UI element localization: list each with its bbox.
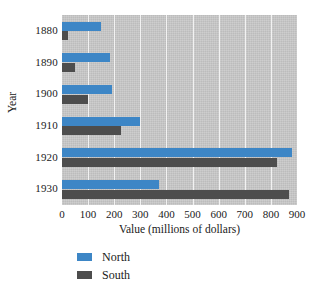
- bar-group: [62, 15, 297, 47]
- x-tick-300: 300: [132, 208, 149, 220]
- x-tick-0: 0: [59, 208, 65, 220]
- bar-south-1890: [62, 63, 75, 72]
- bar-north-1880: [62, 22, 101, 31]
- bar-north-1900: [62, 85, 112, 94]
- legend-item-south: South: [77, 266, 197, 284]
- y-tick-1910: 1910: [18, 120, 58, 131]
- x-tick-400: 400: [158, 208, 175, 220]
- legend-swatch-north-icon: [77, 253, 92, 261]
- x-tick-900: 900: [289, 208, 306, 220]
- y-tick-1930: 1930: [18, 183, 58, 194]
- legend: North South: [77, 248, 197, 284]
- bar-group: [62, 78, 297, 110]
- bar-group: [62, 110, 297, 142]
- bar-chart-figure: 188018901900191019201930 010020030040050…: [0, 0, 312, 291]
- y-tick-1920: 1920: [18, 152, 58, 163]
- bar-north-1890: [62, 53, 110, 62]
- x-tick-700: 700: [237, 208, 254, 220]
- legend-label-south: South: [102, 269, 130, 282]
- bar-south-1910: [62, 126, 121, 135]
- bar-group: [62, 173, 297, 205]
- legend-item-north: North: [77, 248, 197, 266]
- x-tick-800: 800: [263, 208, 280, 220]
- x-tick-100: 100: [80, 208, 97, 220]
- y-axis-title: Year: [6, 73, 19, 133]
- x-tick-500: 500: [184, 208, 201, 220]
- bar-south-1920: [62, 158, 277, 167]
- x-tick-200: 200: [106, 208, 123, 220]
- bar-north-1930: [62, 180, 159, 189]
- bar-group: [62, 142, 297, 174]
- bar-north-1910: [62, 117, 140, 126]
- bar-south-1900: [62, 95, 88, 104]
- bar-north-1920: [62, 148, 292, 157]
- legend-swatch-south-icon: [77, 271, 92, 279]
- x-tick-600: 600: [210, 208, 227, 220]
- bar-south-1930: [62, 190, 289, 199]
- legend-label-north: North: [102, 251, 130, 264]
- plot-area: [62, 15, 297, 205]
- bar-group: [62, 47, 297, 79]
- y-tick-1900: 1900: [18, 88, 58, 99]
- bar-south-1880: [62, 31, 68, 40]
- y-tick-1890: 1890: [18, 57, 58, 68]
- x-axis-title: Value (millions of dollars): [62, 223, 297, 236]
- x-axis-tick-labels: 0100200300400500600700800900: [62, 208, 297, 222]
- y-tick-1880: 1880: [18, 25, 58, 36]
- y-axis-tick-labels: 188018901900191019201930: [14, 15, 58, 205]
